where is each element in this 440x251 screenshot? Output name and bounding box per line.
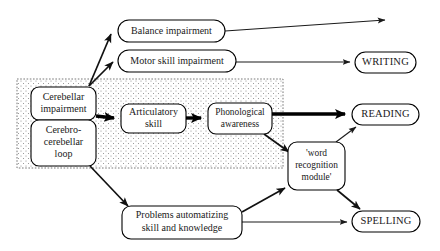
outcome-label-writing: WRITING <box>362 56 409 67</box>
node-label-word-recognition-module-line2: recognition <box>295 160 338 170</box>
node-word-recognition-module[interactable]: 'word recognition module' <box>288 142 345 190</box>
node-label-cerebro-cerebellar-loop-line2: cerebellar <box>44 136 84 147</box>
node-motor-skill-impairment[interactable]: Motor skill impairment <box>118 50 236 72</box>
node-label-cerebellar-impairment-line1: Cerebellar <box>43 91 85 102</box>
outcome-reading[interactable]: READING <box>352 104 419 125</box>
node-label-articulatory-skill-line1: Articulatory <box>129 106 178 117</box>
node-label-cerebro-cerebellar-loop-line3: loop <box>55 148 73 159</box>
diagram-canvas: Cerebellar impairment Cerebro- cerebella… <box>0 0 440 251</box>
node-label-problems-automatizing-line1: Problems automatizing <box>136 209 229 220</box>
node-label-balance-impairment: Balance impairment <box>131 25 212 36</box>
outcome-spelling[interactable]: SPELLING <box>352 211 420 232</box>
node-label-problems-automatizing-line2: skill and knowledge <box>142 222 223 233</box>
node-label-articulatory-skill-line2: skill <box>145 118 162 129</box>
node-label-motor-skill-impairment: Motor skill impairment <box>130 55 224 66</box>
outcome-writing[interactable]: WRITING <box>355 52 416 73</box>
node-label-word-recognition-module-line3: module' <box>302 172 332 182</box>
diagram-svg: Cerebellar impairment Cerebro- cerebella… <box>0 0 440 251</box>
node-cerebellar-impairment[interactable]: Cerebellar impairment <box>31 87 96 120</box>
edge-core-to-balance <box>89 34 111 86</box>
node-articulatory-skill[interactable]: Articulatory skill <box>121 104 186 133</box>
outcome-label-spelling: SPELLING <box>360 215 411 226</box>
node-label-cerebro-cerebellar-loop-line1: Cerebro- <box>46 124 82 135</box>
node-problems-automatizing[interactable]: Problems automatizing skill and knowledg… <box>122 206 242 239</box>
node-balance-impairment[interactable]: Balance impairment <box>118 20 225 42</box>
edge-word-module-to-spelling <box>337 190 360 209</box>
node-label-cerebellar-impairment-line2: impairment <box>40 103 86 114</box>
edge-cerebellar-to-articulatory <box>96 116 114 118</box>
edge-problems-to-word-module <box>242 188 285 212</box>
node-phonological-awareness[interactable]: Phonological awareness <box>208 103 272 134</box>
edge-loop-to-problems <box>90 166 128 206</box>
node-label-word-recognition-module-line1: 'word <box>306 148 327 158</box>
node-label-phonological-awareness-line2: awareness <box>221 119 260 129</box>
node-label-phonological-awareness-line1: Phonological <box>215 107 265 117</box>
edge-word-module-to-reading <box>336 127 356 142</box>
outcome-label-reading: READING <box>361 108 410 119</box>
edge-balance-open <box>225 20 385 31</box>
node-cerebro-cerebellar-loop[interactable]: Cerebro- cerebellar loop <box>31 120 96 166</box>
outcome-layer: WRITING READING SPELLING <box>352 52 420 232</box>
